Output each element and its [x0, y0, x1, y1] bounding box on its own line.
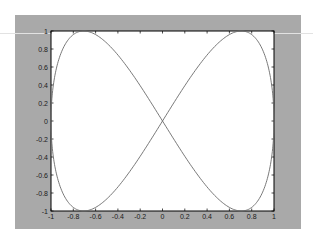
y-tick-label: 0.6 [38, 64, 48, 71]
y-tick-label: 0.2 [38, 100, 48, 107]
x-tick-label: 1 [272, 213, 276, 220]
chart-canvas: -1-0.8-0.6-0.4-0.200.20.40.60.81 -1-0.8-… [0, 0, 313, 246]
x-tick-label: 0.2 [180, 213, 190, 220]
x-axis-tick-labels: -1-0.8-0.6-0.4-0.200.20.40.60.81 [48, 213, 276, 220]
x-tick-label: 0 [161, 213, 165, 220]
x-tick-label: -0.2 [134, 213, 146, 220]
x-tick-label: -0.8 [67, 213, 79, 220]
x-tick-label: 0.6 [225, 213, 235, 220]
y-axis-tick-labels: -1-0.8-0.6-0.4-0.200.20.40.60.81 [36, 28, 48, 215]
y-tick-label: -0.2 [36, 136, 48, 143]
y-tick-label: 0.8 [38, 46, 48, 53]
y-tick-label: -0.6 [36, 172, 48, 179]
x-tick-label: -0.4 [112, 213, 124, 220]
y-tick-label: 0 [44, 118, 48, 125]
y-tick-label: -0.4 [36, 154, 48, 161]
y-tick-label: -1 [42, 208, 48, 215]
x-tick-label: -1 [48, 213, 54, 220]
y-tick-label: 1 [44, 28, 48, 35]
y-tick-label: 0.4 [38, 82, 48, 89]
y-tick-label: -0.8 [36, 190, 48, 197]
x-tick-label: 0.8 [247, 213, 257, 220]
x-tick-label: 0.4 [202, 213, 212, 220]
x-tick-label: -0.6 [90, 213, 102, 220]
